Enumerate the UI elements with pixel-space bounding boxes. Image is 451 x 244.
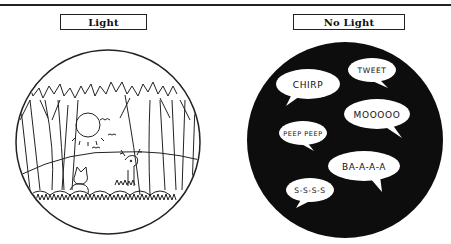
bubble-baa-text: BA-A-A-A [342,162,386,172]
light-scene [15,50,200,234]
bubble-hiss-text: S-S-S-S [294,186,325,195]
bubble-peep-text: PEEP PEEP [283,130,323,138]
bubble-moo-text: MOOOOO [354,110,401,120]
bubble-chirp-text: CHIRP [293,80,323,90]
no-light-scene: CHIRP TWEET MOOOOO PEEP PEEP BA-A-A-A S-… [247,42,443,238]
bubble-tweet-text: TWEET [356,66,386,75]
